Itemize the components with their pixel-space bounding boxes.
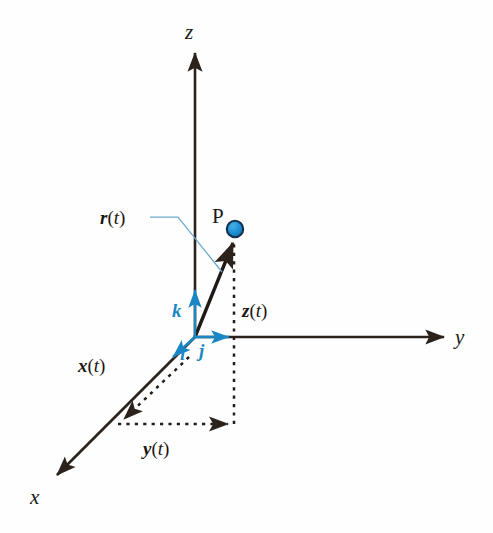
x-axis-label: x — [30, 487, 39, 508]
x-comp-close-paren: ) — [99, 355, 105, 376]
x-comp-letter: x — [78, 355, 88, 376]
figure-canvas: z y x P r(t) x(t) y(t) z(t) i j k — [0, 0, 493, 533]
z-component-label: z(t) — [242, 301, 267, 320]
x-component-label: x(t) — [78, 356, 105, 375]
i-hat-label: i — [180, 344, 185, 363]
diagram-svg — [0, 0, 493, 533]
k-hat-label: k — [172, 301, 182, 320]
z-comp-close-paren: ) — [261, 300, 267, 321]
position-vector-group — [195, 243, 233, 337]
r-close-paren: ) — [119, 207, 125, 228]
axis-group — [57, 53, 444, 475]
point-p-label: P — [212, 206, 224, 227]
position-vector-arrow — [195, 243, 233, 337]
point-p-marker — [227, 221, 243, 237]
x-component-line — [124, 357, 189, 419]
position-vector-label: r(t) — [100, 208, 125, 227]
y-comp-close-paren: ) — [163, 438, 169, 459]
z-axis-label: z — [185, 22, 193, 43]
j-hat-label: j — [199, 341, 204, 360]
point-p-dot — [227, 221, 243, 237]
y-axis-label: y — [455, 327, 464, 348]
y-component-label: y(t) — [143, 439, 169, 458]
